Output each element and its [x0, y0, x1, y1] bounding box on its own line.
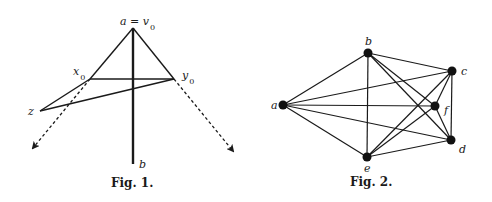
label-b: b: [139, 158, 146, 171]
node-c: [448, 67, 457, 76]
edge-b-c: [368, 53, 452, 71]
edge-c-d: [451, 71, 452, 140]
node-label-e: e: [364, 162, 371, 175]
edge-a-x0: [90, 28, 133, 79]
figures-canvas: a = v0x0y0zb Fig. 1. abcfde Fig. 2.: [0, 0, 492, 202]
edge-a-e: [283, 105, 367, 157]
dashed-arrow-1: [174, 79, 233, 151]
node-d: [447, 136, 456, 145]
edge-c-f: [435, 71, 452, 106]
figure-2: abcfde Fig. 2.: [271, 35, 467, 189]
node-e: [363, 153, 372, 162]
node-b: [364, 49, 373, 58]
fig2-caption: Fig. 2.: [350, 175, 392, 189]
fig2-edges: [283, 53, 452, 157]
fig1-solid-edges: [40, 28, 174, 164]
node-label-c: c: [461, 65, 467, 78]
figure-1: a = v0x0y0zb Fig. 1.: [27, 15, 233, 190]
label-y0: y: [181, 69, 189, 82]
edge-z-y0: [40, 79, 174, 111]
edge-x0-z: [40, 79, 90, 111]
edge-f-e: [367, 106, 435, 157]
label-z: z: [27, 105, 34, 118]
label-a-v0-subscript: 0: [150, 23, 155, 32]
node-a: [279, 101, 288, 110]
edge-a-f: [283, 105, 435, 106]
dashed-arrow-0: [33, 79, 90, 148]
edge-d-e: [367, 140, 451, 157]
fig1-labels: a = v0x0y0zb: [27, 15, 194, 171]
edge-b-d: [368, 53, 451, 140]
node-label-f: f: [443, 104, 450, 117]
fig1-caption: Fig. 1.: [111, 176, 153, 190]
node-label-b: b: [365, 35, 372, 48]
node-label-a: a: [271, 99, 278, 112]
edge-b-e: [367, 53, 368, 157]
edge-f-d: [435, 106, 451, 140]
label-y0-subscript: 0: [189, 77, 194, 86]
edge-a-b: [283, 53, 368, 105]
label-x0-subscript: 0: [80, 73, 85, 82]
edge-a-y0: [133, 28, 174, 79]
label-a-v0: a = v: [120, 15, 150, 28]
node-label-d: d: [459, 143, 466, 156]
node-f: [431, 102, 440, 111]
label-x0: x: [73, 65, 80, 78]
